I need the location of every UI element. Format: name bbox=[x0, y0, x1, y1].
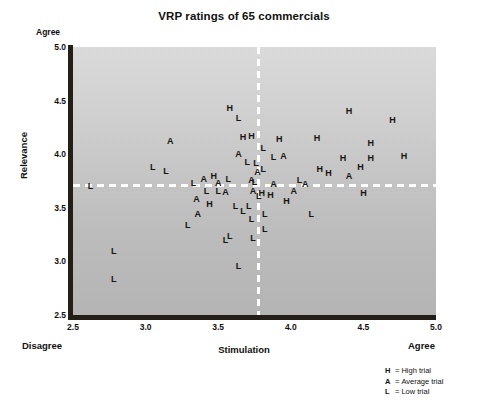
legend-label: High trial bbox=[401, 366, 431, 375]
data-point: L bbox=[227, 231, 233, 240]
data-point: L bbox=[240, 207, 246, 216]
data-point: A bbox=[290, 186, 297, 195]
data-point: L bbox=[262, 225, 268, 234]
y-axis-title: Relevance bbox=[18, 111, 29, 201]
data-point: A bbox=[195, 210, 202, 219]
x-tick-label: 2.5 bbox=[53, 322, 93, 332]
data-point: L bbox=[260, 165, 266, 174]
x-tick-label: 4.0 bbox=[271, 322, 311, 332]
data-point: L bbox=[308, 210, 314, 219]
y-tick-label: 2.5 bbox=[26, 310, 66, 320]
data-point: H bbox=[314, 134, 321, 143]
data-point: L bbox=[111, 274, 117, 283]
data-point: L bbox=[250, 233, 256, 242]
x-tick-label: 4.5 bbox=[343, 322, 383, 332]
data-point: A bbox=[346, 171, 353, 180]
data-point: L bbox=[262, 210, 268, 219]
data-point: A bbox=[302, 180, 309, 189]
data-point: L bbox=[191, 179, 197, 188]
data-point: H bbox=[267, 190, 274, 199]
y-tick-label: 4.5 bbox=[26, 96, 66, 106]
data-point: H bbox=[340, 154, 347, 163]
data-point: H bbox=[283, 197, 290, 206]
data-point: L bbox=[253, 158, 259, 167]
data-point: H bbox=[276, 135, 283, 144]
data-point: H bbox=[325, 169, 332, 178]
data-point: H bbox=[248, 131, 255, 140]
data-point: L bbox=[215, 186, 221, 195]
data-point: A bbox=[167, 137, 174, 146]
data-point: A bbox=[254, 168, 261, 177]
legend-item: H=High trial bbox=[385, 366, 443, 377]
data-point: A bbox=[280, 152, 287, 161]
data-point: H bbox=[367, 139, 374, 148]
data-point: A bbox=[270, 180, 277, 189]
x-tick-label: 3.5 bbox=[198, 322, 238, 332]
data-point: H bbox=[206, 199, 213, 208]
y-tick-label: 3.5 bbox=[26, 203, 66, 213]
data-point: H bbox=[259, 188, 266, 197]
data-point: H bbox=[401, 152, 408, 161]
data-point: L bbox=[185, 220, 191, 229]
data-point: A bbox=[235, 150, 242, 159]
data-point: H bbox=[227, 104, 234, 113]
data-point: A bbox=[193, 195, 200, 204]
data-point: L bbox=[236, 261, 242, 270]
data-point: H bbox=[240, 133, 247, 142]
data-point: L bbox=[204, 186, 210, 195]
data-point: H bbox=[317, 165, 324, 174]
legend-item: A=Average trial bbox=[385, 377, 443, 388]
legend-key: L bbox=[385, 387, 393, 398]
data-point: H bbox=[389, 115, 396, 124]
x-tick-label: 5.0 bbox=[416, 322, 456, 332]
data-point: H bbox=[346, 107, 353, 116]
data-point: L bbox=[88, 182, 94, 191]
y-tick-label: 4.0 bbox=[26, 149, 66, 159]
vertical-reference-line bbox=[257, 47, 260, 315]
data-point: L bbox=[260, 143, 266, 152]
x-axis-low-anchor: Disagree bbox=[22, 340, 62, 351]
legend-key: H bbox=[385, 366, 393, 377]
data-point: A bbox=[200, 174, 207, 183]
legend-label: Average trial bbox=[401, 377, 443, 386]
data-point: L bbox=[111, 246, 117, 255]
page-title: VRP ratings of 65 commercials bbox=[0, 10, 488, 22]
data-point: A bbox=[250, 186, 257, 195]
data-point: L bbox=[233, 201, 239, 210]
data-point: L bbox=[163, 167, 169, 176]
data-point: L bbox=[271, 153, 277, 162]
data-point: L bbox=[249, 214, 255, 223]
y-tick-label: 5.0 bbox=[26, 42, 66, 52]
y-tick-label: 3.0 bbox=[26, 256, 66, 266]
data-point: H bbox=[360, 188, 367, 197]
data-point: H bbox=[357, 163, 364, 172]
legend: H=High trialA=Average trialL=Low trial bbox=[385, 366, 443, 398]
plot-area: HLAHALLLAHLALLAHLLALLLLLLHHHHHLHLAHHLHHH… bbox=[73, 47, 436, 315]
data-point: L bbox=[236, 113, 242, 122]
data-point: H bbox=[367, 154, 374, 163]
legend-item: L=Low trial bbox=[385, 387, 443, 398]
x-axis-spine bbox=[68, 315, 436, 320]
legend-label: Low trial bbox=[401, 387, 429, 396]
x-axis-high-anchor: Agree bbox=[408, 340, 435, 351]
data-point: L bbox=[226, 174, 232, 183]
legend-key: A bbox=[385, 377, 393, 388]
data-point: L bbox=[244, 157, 250, 166]
chart-root: VRP ratings of 65 commercials Agree HLAH… bbox=[0, 0, 488, 403]
data-point: L bbox=[246, 201, 252, 210]
x-tick-label: 3.0 bbox=[126, 322, 166, 332]
data-point: L bbox=[150, 163, 156, 172]
data-point: A bbox=[222, 187, 229, 196]
